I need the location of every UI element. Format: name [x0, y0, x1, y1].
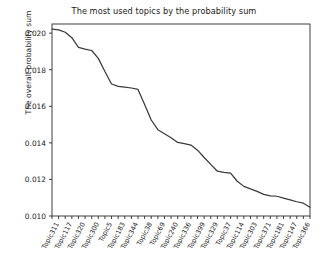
x-tick-label-layer: Topic311Topic117Topic320Topic300Topic5To… [0, 0, 328, 266]
chart-figure: The most used topics by the probability … [0, 0, 328, 266]
